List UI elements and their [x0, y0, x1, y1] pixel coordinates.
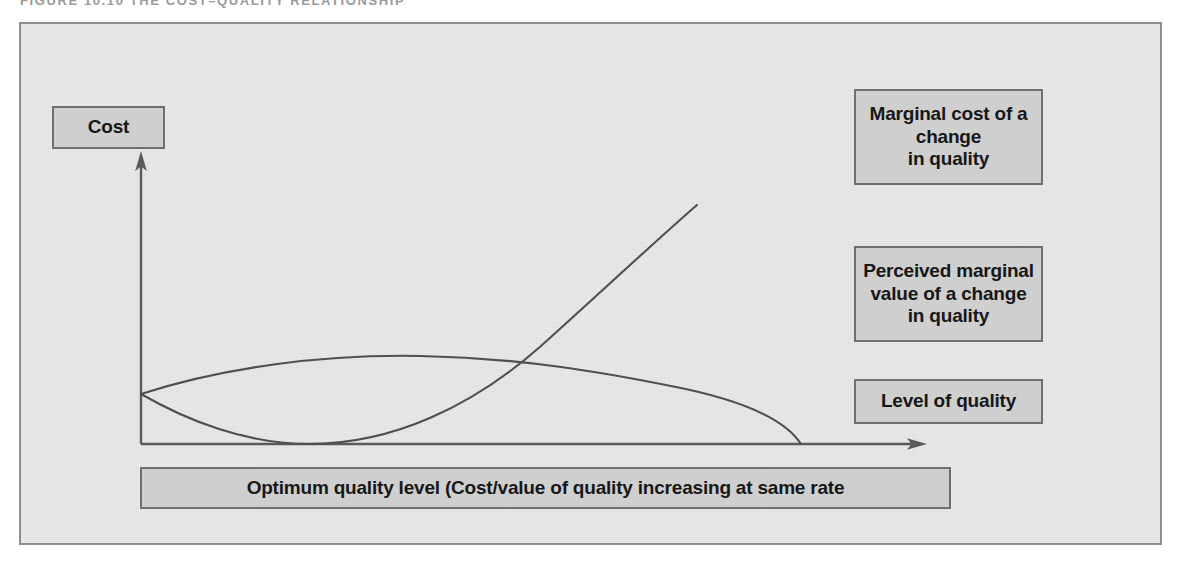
figure-panel: Cost Marginal cost of achangein quality … — [19, 22, 1162, 545]
cost-axis-label-box: Cost — [52, 106, 165, 149]
callout-marginal-cost: Marginal cost of achangein quality — [854, 89, 1043, 185]
callout-level-of-quality-text: Level of quality — [881, 390, 1016, 412]
figure-caption: FIGURE 10.10 THE COST–QUALITY RELATIONSH… — [20, 0, 405, 8]
cost-axis-label-text: Cost — [88, 116, 129, 138]
marginal-cost-curve — [141, 205, 697, 444]
callout-perceived-value-text: Perceived marginalvalue of a changein qu… — [863, 260, 1034, 327]
callout-optimum-quality: Optimum quality level (Cost/value of qua… — [140, 467, 951, 509]
perceived-value-curve — [141, 356, 801, 444]
callout-marginal-cost-text: Marginal cost of achangein quality — [870, 103, 1028, 170]
callout-optimum-quality-text: Optimum quality level (Cost/value of qua… — [247, 477, 845, 499]
callout-perceived-value: Perceived marginalvalue of a changein qu… — [854, 246, 1043, 342]
callout-level-of-quality: Level of quality — [854, 379, 1043, 424]
